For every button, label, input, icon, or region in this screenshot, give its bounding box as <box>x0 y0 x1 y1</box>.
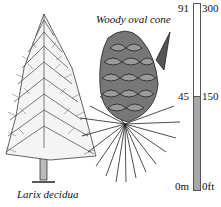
height-scale-bar <box>193 3 201 191</box>
scale-imperial-top: 300 <box>202 3 219 14</box>
scale-metric-top: 91 <box>178 3 189 14</box>
scale-metric-bottom: 0m <box>175 181 189 192</box>
tree-caption: Larix decidua <box>17 188 78 200</box>
scale-metric-mid: 45 <box>178 91 189 102</box>
scale-imperial-mid: 150 <box>202 91 219 102</box>
cone-caption: Woody oval cone <box>96 13 171 25</box>
cone-illustration <box>80 26 185 184</box>
scale-imperial-bottom: 0ft <box>202 181 214 192</box>
height-scale-fill <box>194 96 200 190</box>
